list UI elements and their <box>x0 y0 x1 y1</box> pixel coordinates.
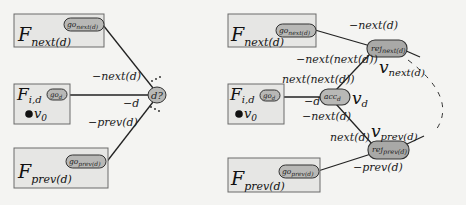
edge-label-neg-d: −d <box>304 95 320 108</box>
edge-label-neg-prev: −prev(d) <box>353 161 403 174</box>
box-f-prev-left: Fprev(d) goprev(d) <box>14 148 108 188</box>
edge-label-next-next: next(next(d)) <box>282 73 355 86</box>
ellipsis-upper <box>151 76 161 82</box>
box-f-id-left: Fi,d god v0 <box>14 84 70 124</box>
box-f-id-right: Fi,d god v0 <box>228 84 284 124</box>
node-acc-d: accd <box>320 89 350 105</box>
vertex-label-v-next: vnext(d) <box>379 57 425 78</box>
ellipsis-lower <box>150 106 160 112</box>
node-rej-prev: rejprev(d) <box>368 141 409 159</box>
f-sub: next(d) <box>31 36 71 49</box>
box-f-next-left: Fnext(d) gonext(d) <box>14 14 104 49</box>
box-f-next-right: Fnext(d) gonext(d) <box>228 14 316 49</box>
box-f-prev-right: Fprev(d) goprev(d) <box>228 158 320 193</box>
edge-label-go-next: −next(d) <box>349 19 398 32</box>
edge-go-next-to-rej <box>315 30 367 45</box>
svg-text:d?: d? <box>151 90 163 101</box>
edge-label-next: next(d) <box>330 131 370 144</box>
edge-label-prev-left: −prev(d) <box>88 116 138 129</box>
vertex-label-v-prev: vprev(d) <box>371 121 418 142</box>
f-label: F <box>17 23 32 45</box>
left-diagram: Fnext(d) gonext(d) Fi,d god v0 Fprev(d) … <box>14 14 166 188</box>
start-dot-icon-right <box>235 110 243 118</box>
right-diagram: Fnext(d) gonext(d) Fi,d god v0 Fprev(d) … <box>228 14 443 193</box>
vertex-label-v-d: vd <box>352 88 368 109</box>
edge-label-neg-next-next: −next(next(d)) <box>296 53 378 66</box>
edge-prev-left <box>105 102 153 164</box>
node-d-query: d? <box>148 87 166 103</box>
edge-label-d-left: −d <box>123 97 139 110</box>
state-diagram: Fnext(d) gonext(d) Fi,d god v0 Fprev(d) … <box>0 0 466 205</box>
edge-label-neg-next: −next(d) <box>302 110 351 123</box>
start-dot-icon <box>25 110 33 118</box>
edge-label-next-left: −next(d) <box>92 70 141 83</box>
